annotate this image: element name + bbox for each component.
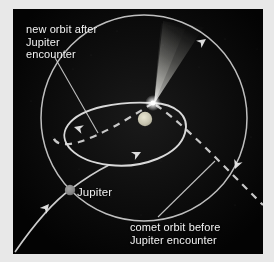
label-new-orbit-line1: new orbit after [26,23,97,36]
label-new-orbit-line2: Jupiter [26,36,97,49]
label-new-orbit-line3: encounter [26,48,97,61]
jupiter-body [65,185,75,195]
new-orbit-ellipse [64,103,186,166]
comet-nucleus [151,101,156,106]
leader-line-comet-orbit [158,161,215,217]
label-jupiter: Jupiter [77,186,112,199]
sun-body [138,112,152,126]
label-new-orbit: new orbit after Jupiter encounter [26,23,97,61]
arrow-outer-right [231,159,243,171]
arrow-ellipse-bottom [131,148,143,160]
comet-tail [154,21,204,104]
leader-line-new-orbit [54,56,98,133]
label-comet-orbit-line1: comet orbit before [130,221,220,234]
arrow-ellipse-left [73,123,84,134]
space-panel: new orbit after Jupiter encounter comet … [13,9,263,254]
diagram-container: new orbit after Jupiter encounter comet … [0,0,274,262]
label-comet-orbit-line2: Jupiter encounter [130,234,220,247]
label-comet-orbit: comet orbit before Jupiter encounter [130,221,220,246]
